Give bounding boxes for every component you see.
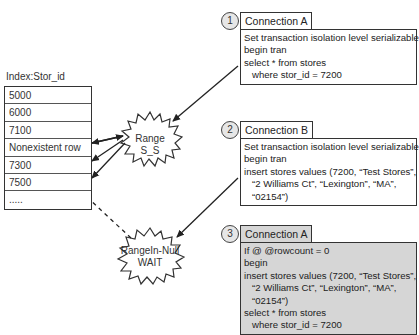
- step-3-number-badge: 3: [221, 225, 239, 243]
- index-row: 7500: [5, 174, 91, 191]
- index-row: 5000: [5, 87, 91, 104]
- step-1-number-badge: 1: [221, 12, 239, 30]
- step-1-title: Connection A: [240, 12, 312, 29]
- step-2-number-badge: 2: [221, 121, 239, 139]
- rangein-null-label-line1: RangeIn-Null: [119, 245, 181, 257]
- index-title: Index:Stor_id: [6, 71, 65, 82]
- step-2-title: Connection B: [240, 121, 313, 138]
- rangein-null-label: RangeIn-Null WAIT: [119, 245, 181, 269]
- index-row-nonexistent: Nonexistent row: [5, 139, 91, 156]
- rangein-null-label-line2: WAIT: [119, 257, 181, 269]
- index-row: 7100: [5, 122, 91, 139]
- index-table: 5000 6000 7100 Nonexistent row 7300 7500…: [4, 86, 92, 210]
- index-row: 7300: [5, 157, 91, 174]
- step-3-title: Connection A: [240, 225, 312, 242]
- step-3-code-box: If @ @rowcount = 0 begin insert stores v…: [240, 242, 417, 335]
- index-row: 6000: [5, 104, 91, 121]
- step-2-code-box: Set transaction isolation level serializ…: [240, 138, 417, 206]
- index-row-ellipsis: .....: [5, 191, 91, 208]
- range-ss-label: Range S_S: [125, 133, 175, 157]
- step-1-code-box: Set transaction isolation level serializ…: [240, 29, 417, 85]
